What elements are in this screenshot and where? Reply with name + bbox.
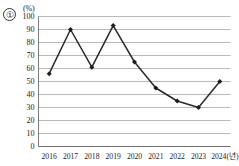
y-axis-tick-label: 40 (27, 90, 35, 99)
y-axis-tick-label: 50 (27, 77, 35, 86)
y-axis-tick-label: 70 (27, 51, 35, 60)
y-axis-tick-label: 90 (27, 25, 35, 34)
x-axis-tick-label: 2023 (191, 152, 206, 161)
x-axis-tick-label: 2018 (84, 152, 99, 161)
x-axis-tick-label: 2021 (148, 152, 163, 161)
y-axis-tick-label: 10 (27, 129, 35, 138)
y-axis-tick-label: 20 (27, 116, 35, 125)
x-axis-tick-label: 2019 (106, 152, 121, 161)
series-line (49, 26, 220, 108)
y-axis-tick-label: 100 (23, 12, 35, 21)
x-axis-tick-label: 2016 (42, 152, 57, 161)
line-chart-svg: 0102030405060708090100 20162017201820192… (0, 0, 239, 166)
x-axis-tick-label: 2022 (170, 152, 185, 161)
plot-area: 0102030405060708090100 20162017201820192… (0, 0, 239, 166)
data-series-group (49, 26, 220, 108)
chart-figure: ① (%) 0102030405060708090100 20162017201… (0, 0, 239, 166)
y-axis-tick-labels-group: 0102030405060708090100 (23, 12, 35, 151)
x-axis-tick-label: 2024(년) (211, 151, 239, 161)
x-axis-tick-label: 2017 (63, 152, 78, 161)
data-markers-group (47, 23, 223, 110)
x-axis-tick-label: 2020 (127, 152, 142, 161)
y-axis-tick-label: 60 (27, 64, 35, 73)
y-axis-tick-label: 80 (27, 38, 35, 47)
y-axis-tick-label: 0 (31, 142, 35, 151)
data-point-marker (47, 71, 52, 76)
x-axis-tick-labels-group: 201620172018201920202021202220232024(년) (42, 151, 239, 161)
y-axis-tick-label: 30 (27, 103, 35, 112)
